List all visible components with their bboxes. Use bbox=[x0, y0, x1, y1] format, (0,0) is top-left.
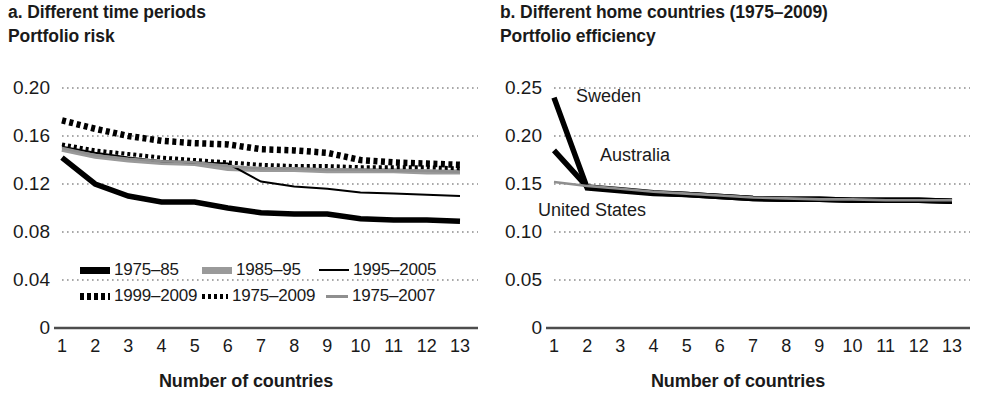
panel-b-x-axis-label: Number of countries bbox=[492, 371, 984, 392]
y-tick-label: 0.12 bbox=[0, 174, 50, 193]
x-tick-label: 12 bbox=[904, 337, 934, 355]
x-tick-label: 13 bbox=[445, 337, 475, 355]
legend-swatch-thin-dotted-black bbox=[202, 294, 228, 299]
legend-item-1975-85: 1975–85 bbox=[80, 260, 179, 280]
x-tick-label: 3 bbox=[113, 337, 143, 355]
two-panel-line-chart-figure: a. Different time periods Portfolio risk… bbox=[0, 0, 985, 397]
legend-swatch-thick-solid-black bbox=[80, 267, 110, 274]
x-tick-label: 5 bbox=[672, 337, 702, 355]
x-tick-label: 2 bbox=[80, 337, 110, 355]
x-tick-label: 7 bbox=[738, 337, 768, 355]
x-tick-label: 11 bbox=[379, 337, 409, 355]
legend-item-1975-2007: 1975–2007 bbox=[326, 286, 435, 306]
legend-swatch-thick-solid-gray bbox=[202, 267, 232, 274]
panel-a-legend: 1975–85 1985–95 1995–2005 1999–2009 bbox=[62, 258, 482, 310]
x-tick-label: 6 bbox=[213, 337, 243, 355]
legend-item-1985-95: 1985–95 bbox=[202, 260, 301, 280]
x-tick-label: 12 bbox=[412, 337, 442, 355]
y-tick-label: 0.15 bbox=[492, 174, 542, 193]
x-tick-label: 9 bbox=[804, 337, 834, 355]
x-tick-label: 7 bbox=[246, 337, 276, 355]
x-tick-label: 8 bbox=[771, 337, 801, 355]
y-tick-label: 0.20 bbox=[0, 78, 50, 97]
panel-b-different-home-countries: b. Different home countries (1975–2009) … bbox=[492, 0, 984, 397]
annotation-sweden: Sweden bbox=[576, 87, 641, 105]
legend-label-1999-2009: 1999–2009 bbox=[114, 286, 197, 306]
y-tick-label: 0.04 bbox=[0, 270, 50, 289]
legend-label-1975-85: 1975–85 bbox=[114, 260, 179, 280]
x-tick-label: 8 bbox=[279, 337, 309, 355]
x-tick-label: 10 bbox=[838, 337, 868, 355]
x-tick-label: 3 bbox=[605, 337, 635, 355]
y-tick-label: 0.25 bbox=[492, 78, 542, 97]
legend-swatch-thin-solid-gray bbox=[326, 295, 348, 298]
legend-item-1999-2009: 1999–2009 bbox=[80, 286, 197, 306]
panel-a-x-axis-label: Number of countries bbox=[0, 371, 492, 392]
legend-swatch-thick-dotted-black bbox=[80, 293, 110, 300]
y-tick-label: 0 bbox=[492, 318, 542, 337]
y-tick-label: 0.20 bbox=[492, 126, 542, 145]
y-tick-label: 0.05 bbox=[492, 270, 542, 289]
x-tick-label: 4 bbox=[639, 337, 669, 355]
x-tick-label: 4 bbox=[147, 337, 177, 355]
x-tick-label: 9 bbox=[312, 337, 342, 355]
x-tick-label: 11 bbox=[871, 337, 901, 355]
legend-item-1975-2009: 1975–2009 bbox=[202, 286, 315, 306]
x-tick-label: 13 bbox=[937, 337, 967, 355]
y-tick-label: 0.08 bbox=[0, 222, 50, 241]
x-tick-label: 1 bbox=[47, 337, 77, 355]
x-tick-label: 5 bbox=[180, 337, 210, 355]
legend-label-1975-2007: 1975–2007 bbox=[352, 286, 435, 306]
legend-label-1985-95: 1985–95 bbox=[236, 260, 301, 280]
y-tick-label: 0.10 bbox=[492, 222, 542, 241]
x-tick-label: 2 bbox=[572, 337, 602, 355]
legend-label-1975-2009: 1975–2009 bbox=[232, 286, 315, 306]
annotation-united-states: United States bbox=[538, 201, 646, 219]
legend-swatch-thin-solid-black bbox=[319, 269, 349, 271]
legend-item-1995-2005: 1995–2005 bbox=[319, 260, 436, 280]
x-tick-label: 6 bbox=[705, 337, 735, 355]
x-tick-label: 10 bbox=[346, 337, 376, 355]
panel-a-different-time-periods: a. Different time periods Portfolio risk… bbox=[0, 0, 492, 397]
x-tick-label: 1 bbox=[539, 337, 569, 355]
legend-label-1995-2005: 1995–2005 bbox=[353, 260, 436, 280]
y-tick-label: 0.16 bbox=[0, 126, 50, 145]
annotation-australia: Australia bbox=[600, 146, 670, 164]
y-tick-label: 0 bbox=[0, 318, 50, 337]
